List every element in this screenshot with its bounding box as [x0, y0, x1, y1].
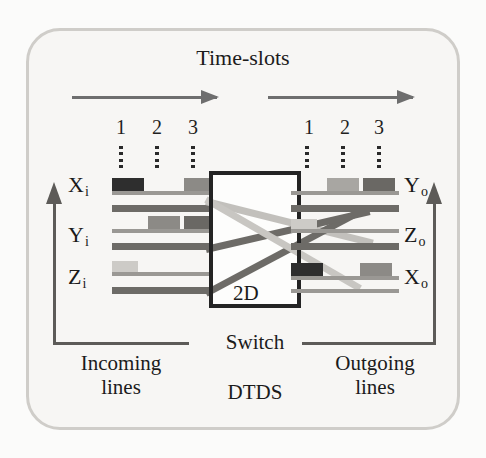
slot-number-left-2: 2 — [146, 116, 168, 139]
slot-divider-left-1 — [119, 146, 123, 168]
slot-divider-left-3 — [191, 146, 195, 168]
outgoing-arrow-stem — [433, 202, 436, 345]
slot-divider-left-2 — [155, 146, 159, 168]
outgoing-arrow-foot — [302, 342, 436, 345]
switch-caption: Switch — [205, 330, 305, 355]
outgoing-arrowhead — [426, 182, 442, 204]
diagram-title: Time-slots — [0, 46, 486, 69]
dtds-switch-diagram: Time-slots 1 2 3 1 2 3 Xi Yi Zi — [0, 0, 486, 458]
time-arrow-right — [268, 96, 413, 99]
outgoing-flow-arrow — [292, 182, 442, 348]
incoming-caption-line1: Incoming — [46, 352, 196, 376]
incoming-lines-caption: Incoming lines — [46, 352, 196, 399]
slot-number-right-3: 3 — [368, 116, 390, 139]
slot-number-left-1: 1 — [110, 116, 132, 139]
incoming-arrow-stem — [53, 202, 56, 345]
slot-divider-right-3 — [377, 146, 381, 168]
outgoing-caption-line2: lines — [300, 376, 450, 400]
incoming-caption-line2: lines — [46, 376, 196, 400]
incoming-arrowhead — [46, 182, 62, 204]
slot-divider-right-2 — [341, 146, 345, 168]
slot-number-right-1: 1 — [298, 116, 320, 139]
incoming-flow-arrow — [46, 182, 196, 348]
slot-number-right-2: 2 — [334, 116, 356, 139]
outgoing-lines-caption: Outgoing lines — [300, 352, 450, 399]
outgoing-caption-line1: Outgoing — [300, 352, 450, 376]
incoming-arrow-foot — [53, 342, 189, 345]
time-arrow-left — [72, 96, 217, 99]
dtds-caption: DTDS — [205, 380, 305, 405]
slot-divider-right-1 — [305, 146, 309, 168]
slot-number-left-3: 3 — [182, 116, 204, 139]
switch-2d-label: 2D — [233, 281, 259, 306]
